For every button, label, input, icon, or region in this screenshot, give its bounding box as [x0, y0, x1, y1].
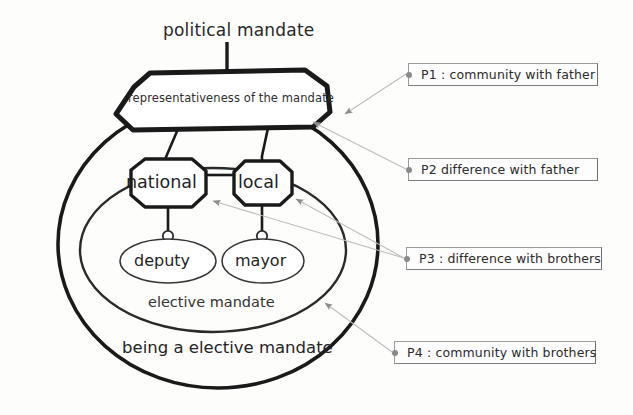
root-node-label: representativeness of the mandate	[128, 93, 334, 105]
page-title: political mandate	[163, 22, 314, 39]
annotation-anchor-dot	[406, 167, 412, 173]
leader-line-p3-local	[296, 199, 404, 258]
annotation-anchor-dot	[404, 256, 410, 262]
annotation-anchor-dot	[392, 350, 398, 356]
annotation-label-p3: P3 : difference with brothers	[419, 251, 601, 266]
outer-region-label: being a elective mandate	[122, 340, 333, 357]
annotation-box-p1[interactable]: P1 : community with father	[408, 63, 598, 86]
inner-region-label: elective mandate	[148, 295, 275, 310]
node-label-local: local	[238, 174, 279, 192]
leaf-label-mayor: mayor	[235, 253, 286, 269]
leaf-label-deputy: deputy	[134, 253, 190, 269]
annotation-box-p2[interactable]: P2 difference with father	[408, 158, 598, 181]
diagram-canvas: political mandate representativeness of …	[0, 0, 633, 415]
annotation-anchor-dot	[406, 72, 412, 78]
leader-line-p2	[313, 122, 406, 169]
leader-line-p1	[345, 74, 406, 114]
annotation-label-p2: P2 difference with father	[421, 162, 579, 177]
node-label-national: national	[126, 174, 197, 192]
annotation-label-p1: P1 : community with father	[421, 67, 595, 82]
annotation-box-p4[interactable]: P4 : community with brothers	[394, 341, 596, 364]
annotation-label-p4: P4 : community with brothers	[407, 345, 596, 360]
annotation-box-p3[interactable]: P3 : difference with brothers	[406, 247, 602, 270]
